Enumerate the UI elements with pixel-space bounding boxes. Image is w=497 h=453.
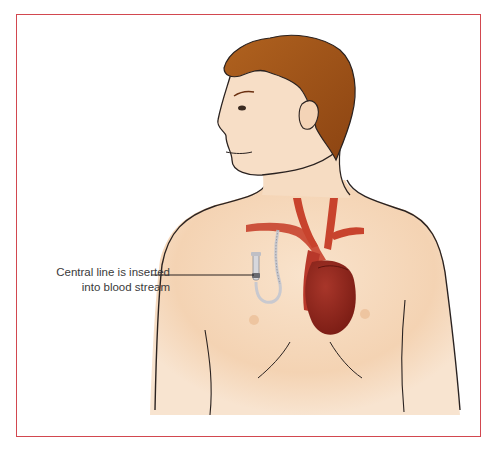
anatomy-illustration (0, 0, 497, 453)
callout-line-1: Central line is inserted (20, 265, 170, 280)
callout-line-2: into blood stream (20, 280, 170, 295)
callout-label: Central line is inserted into blood stre… (20, 265, 170, 295)
